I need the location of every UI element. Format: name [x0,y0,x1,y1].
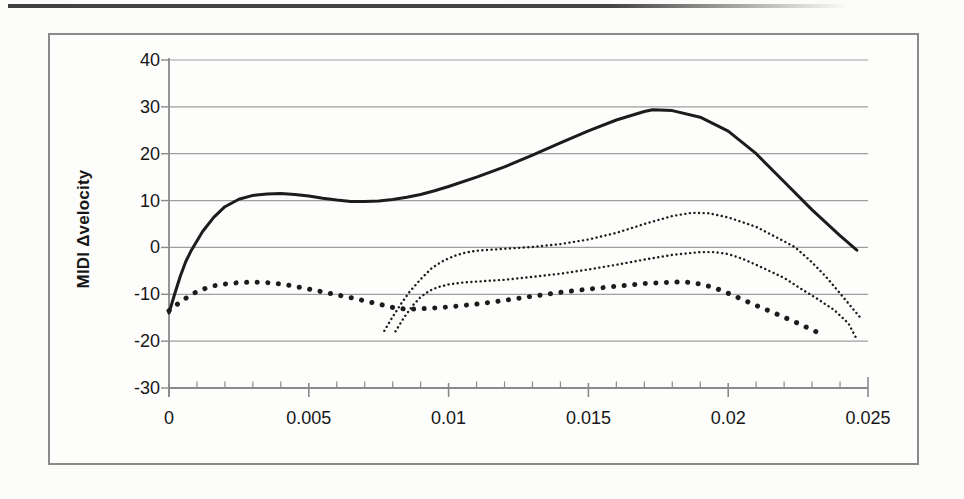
x-tick-label-0.005: 0.005 [286,408,331,428]
chart-canvas: 403020100-10-20-3000.0050.010.0150.020.0… [0,0,964,499]
thick-dotted-curve [169,282,821,334]
y-tick-label--30: -30 [134,378,160,398]
fine-dotted-upper-curve [384,213,859,331]
x-tick-label-0.01: 0.01 [431,408,466,428]
x-tick-label-0.02: 0.02 [711,408,746,428]
scanned-page: MIDI Δvelocity 403020100-10-20-3000.0050… [0,0,964,499]
x-tick-label-0: 0 [164,408,174,428]
y-tick-label--10: -10 [134,284,160,304]
solid-curve [169,110,857,313]
y-tick-label-20: 20 [140,144,160,164]
y-tick-label-40: 40 [140,50,160,70]
x-tick-label-0.025: 0.025 [845,408,890,428]
y-tick-label-30: 30 [140,97,160,117]
y-tick-label--20: -20 [134,331,160,351]
fine-dotted-lower-curve [396,252,857,339]
series-curves [169,110,860,340]
gridlines [169,60,868,388]
axes-and-ticks [161,58,868,397]
y-tick-label-10: 10 [140,191,160,211]
x-tick-label-0.015: 0.015 [566,408,611,428]
y-tick-label-0: 0 [150,237,160,257]
